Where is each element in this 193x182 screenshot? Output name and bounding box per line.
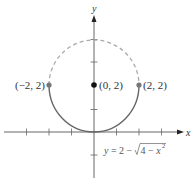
label-point-2-2: (2, 2) [143,79,167,92]
y-axis-arrow-icon [92,15,97,22]
point-neg2-2 [46,82,51,87]
eq-radical-body: 4 − [141,145,157,156]
svg-text:y = 2 −: y = 2 − [103,145,133,156]
point-2-2 [136,82,141,87]
svg-text:4 − x: 4 − x [141,145,162,156]
eq-exponent: 2 [162,142,165,149]
eq-mid: = 2 − [108,145,132,156]
y-axis-label: y [91,3,97,14]
semicircle-graph: x y (−2, 2) (0, 2) (2, 2) y = 2 − 4 − x … [0,0,193,182]
point-center-0-2 [91,82,97,88]
x-axis-arrow-icon [177,130,184,135]
label-point-0-2: (0, 2) [99,79,123,92]
x-axis-label: x [185,127,191,138]
equation-label: y = 2 − 4 − x 2 [103,142,166,156]
eq-var: x [155,145,161,156]
label-point-neg2-2: (−2, 2) [15,79,45,92]
